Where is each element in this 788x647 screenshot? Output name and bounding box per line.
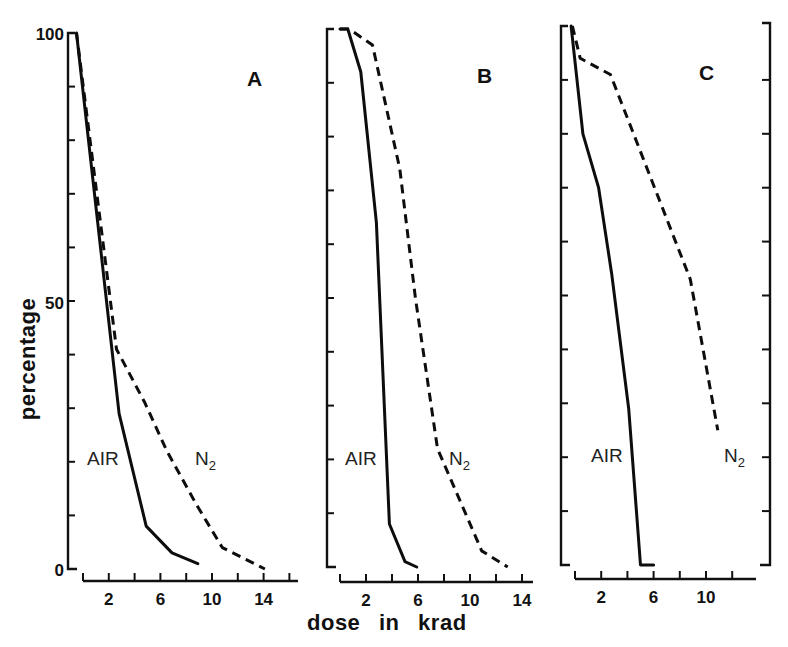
panel-c-label: C	[699, 61, 714, 84]
y-tick-0: 0	[55, 561, 64, 580]
y-tick-100: 100	[36, 25, 64, 44]
x-tick-label: 10	[697, 588, 716, 607]
x-tick-label: 10	[461, 591, 480, 610]
series-air-line	[77, 33, 198, 564]
panel-a-air-label: AIR	[87, 448, 119, 469]
x-tick-label: 6	[156, 590, 165, 609]
x-tick-label: 14	[254, 590, 273, 609]
x-axis-title: dose in krad	[307, 610, 467, 635]
series-n2-line	[77, 33, 265, 569]
y-tick-50: 50	[45, 294, 64, 313]
x-tick-label: 10	[203, 590, 222, 609]
panel-a-label: A	[247, 67, 262, 90]
x-tick-label: 2	[104, 590, 113, 609]
series-n2-line	[572, 26, 717, 430]
x-tick-label: 6	[413, 591, 422, 610]
panel-a: 261014	[68, 33, 298, 609]
panel-b-n2-label: N2	[449, 448, 470, 473]
panel-a-n2-label: N2	[195, 448, 216, 473]
panel-b: 261014	[327, 29, 533, 610]
panel-c: 2610	[561, 23, 770, 607]
x-tick-label: 6	[649, 588, 658, 607]
series-air-line	[571, 26, 654, 565]
x-tick-label: 2	[596, 588, 605, 607]
x-tick-label: 14	[513, 591, 532, 610]
panel-c-n2-label: N2	[724, 445, 745, 470]
right-y-axis-c	[760, 23, 770, 565]
series-air-line	[340, 29, 417, 567]
panel-b-label: B	[477, 64, 492, 87]
panel-b-air-label: AIR	[345, 448, 377, 469]
panel-c-air-label: AIR	[591, 445, 623, 466]
figure: percentage 100 50 0 261014 261014 2610 A…	[0, 0, 788, 647]
y-axis-title: percentage	[15, 298, 40, 420]
x-tick-label: 2	[361, 591, 370, 610]
